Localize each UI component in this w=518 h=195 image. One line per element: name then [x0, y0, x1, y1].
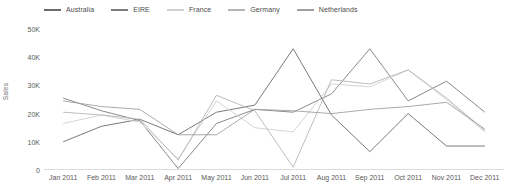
plot-area [44, 29, 504, 170]
legend-item-label: Australia [66, 6, 94, 13]
legend-swatch-icon [111, 9, 128, 11]
x-axis-tick-label: Feb 2011 [82, 174, 120, 190]
x-axis-tick-label: Oct 2011 [389, 174, 427, 190]
legend-item-label: Netherlands [319, 6, 358, 13]
legend-item-netherlands[interactable]: Netherlands [297, 6, 358, 13]
x-axis-tick-label: Mar 2011 [121, 174, 159, 190]
x-axis-tick-label: Apr 2011 [159, 174, 197, 190]
legend-swatch-icon [167, 9, 184, 11]
x-axis-tick-label: Jun 2011 [236, 174, 274, 190]
chart-legend: AustraliaEIREFranceGermanyNetherlands [0, 6, 518, 13]
legend-item-australia[interactable]: Australia [44, 6, 94, 13]
legend-item-germany[interactable]: Germany [228, 6, 280, 13]
y-axis-tick-label: 10K [6, 138, 40, 145]
x-axis-tick-labels: Jan 2011Feb 2011Mar 2011Apr 2011May 2011… [44, 174, 504, 190]
series-lines [44, 29, 504, 170]
legend-item-label: EIRE [133, 6, 150, 13]
y-axis-tick-label: 50K [6, 26, 40, 33]
legend-swatch-icon [44, 9, 61, 11]
y-axis-tick-label: 0 [6, 167, 40, 174]
x-axis-tick-label: Jan 2011 [44, 174, 82, 190]
y-axis-tick-label: 30K [6, 82, 40, 89]
legend-item-eire[interactable]: EIRE [111, 6, 150, 13]
x-axis-tick-label: Nov 2011 [427, 174, 465, 190]
x-axis-tick-label: Dec 2011 [466, 174, 504, 190]
series-line-australia [63, 49, 485, 152]
x-axis-tick-label: Jul 2011 [274, 174, 312, 190]
x-axis-tick-label: Aug 2011 [312, 174, 350, 190]
legend-item-label: Germany [250, 6, 280, 13]
legend-item-label: France [189, 6, 211, 13]
legend-item-france[interactable]: France [167, 6, 211, 13]
series-line-germany [63, 70, 485, 167]
legend-swatch-icon [297, 9, 314, 11]
y-axis-tick-label: 40K [6, 54, 40, 61]
x-axis-tick-label: May 2011 [197, 174, 235, 190]
series-line-france [63, 70, 485, 159]
line-chart: AustraliaEIREFranceGermanyNetherlands 01… [0, 0, 518, 195]
y-axis-title: Sales [2, 83, 9, 100]
legend-swatch-icon [228, 9, 245, 11]
x-axis-tick-label: Sep 2011 [351, 174, 389, 190]
y-axis-tick-label: 20K [6, 110, 40, 117]
